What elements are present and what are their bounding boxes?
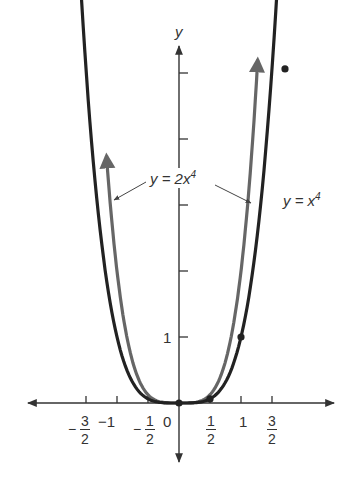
plot-area xyxy=(0,0,348,481)
y-tick-label-1: 1 xyxy=(163,330,171,345)
x-tick-label-1-2: 1 2 xyxy=(206,414,216,446)
curve-2x4 xyxy=(107,60,258,403)
label-pointer-left xyxy=(114,182,146,200)
chart: y 1 0 −1 1 − 3 2 − 1 2 1 2 3 2 y = 2x4 y… xyxy=(0,0,348,481)
x-tick-label-1: 1 xyxy=(239,414,247,429)
curve-label-x4: y = x4 xyxy=(283,192,321,208)
x-tick-label-minus-3-2: − 3 2 xyxy=(80,414,90,446)
curve-label-2x4: y = 2x4 xyxy=(148,168,198,188)
y-axis-label: y xyxy=(175,24,183,39)
data-point xyxy=(206,395,213,402)
x-tick-label-3-2: 3 2 xyxy=(267,414,277,446)
data-point xyxy=(175,399,182,406)
data-point xyxy=(237,333,244,340)
x-tick-label-minus-1: −1 xyxy=(98,414,115,429)
origin-label: 0 xyxy=(163,414,171,429)
x-tick-label-minus-1-2: − 1 2 xyxy=(145,414,155,446)
data-point xyxy=(281,65,288,72)
label-pointer-right xyxy=(215,185,251,203)
